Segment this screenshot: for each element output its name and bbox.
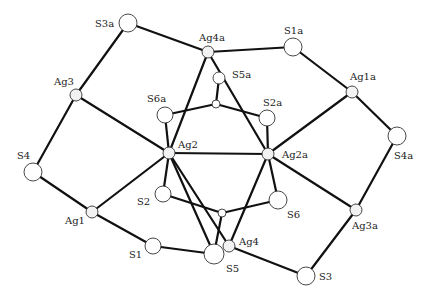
atoms-layer	[24, 14, 406, 285]
bond-ag2-ag2a	[169, 153, 268, 154]
atom-s6	[269, 191, 287, 209]
bond-s1a-ag1a	[293, 47, 352, 92]
atom-label-s6a: S6a	[147, 93, 166, 104]
molecular-structure-diagram: S3aAg4aS1aAg3S5aS6aS2aAg1aS4Ag2Ag2aS4aS2…	[0, 0, 429, 298]
bond-ag4a-s1a	[208, 47, 293, 52]
atom-ag2	[163, 147, 175, 159]
bond-ag4a-ag2	[169, 52, 208, 153]
bond-s4-ag1	[33, 172, 92, 212]
labels-layer: S3aAg4aS1aAg3S5aS6aS2aAg1aS4Ag2Ag2aS4aS2…	[17, 18, 413, 282]
bond-ag2a-ag4	[229, 154, 268, 246]
bond-ag3-s4	[33, 95, 76, 172]
atom-label-ag2: Ag2	[177, 139, 198, 150]
bond-ag2-s5	[169, 153, 214, 254]
bond-ag1-s1	[92, 212, 153, 246]
atom-label-ag2a: Ag2a	[281, 149, 308, 160]
atom-label-s2: S2	[137, 196, 150, 207]
atom-label-s1: S1	[129, 249, 142, 260]
atom-label-ag4a: Ag4a	[198, 32, 225, 43]
atom-label-s4a: S4a	[394, 150, 413, 161]
atom-cbot	[218, 209, 226, 217]
bond-s3-ag4	[229, 246, 306, 276]
atom-label-s6: S6	[287, 209, 300, 220]
atom-s4	[24, 163, 42, 181]
atom-label-s2a: S2a	[263, 97, 282, 108]
atom-s6a	[157, 107, 173, 123]
atom-ctop	[212, 100, 220, 108]
atom-label-ag4: Ag4	[238, 236, 259, 247]
atom-s2	[155, 186, 171, 202]
atom-s1a	[284, 38, 302, 56]
atom-label-s1a: S1a	[284, 25, 303, 36]
bond-s3a-ag3	[76, 23, 128, 95]
atom-s3	[297, 267, 315, 285]
bond-ag3a-s3	[306, 210, 356, 276]
atom-label-ag3: Ag3	[53, 76, 74, 87]
atom-s3a	[119, 14, 137, 32]
atom-ag1a	[346, 86, 358, 98]
bond-s3a-ag4a	[128, 23, 208, 52]
bonds-layer	[33, 23, 397, 276]
atom-ag3a	[350, 204, 362, 216]
atom-label-s3: S3	[319, 271, 332, 282]
atom-ag1	[86, 206, 98, 218]
atom-label-s4: S4	[17, 150, 30, 161]
atom-label-ag1a: Ag1a	[349, 71, 376, 82]
atom-s5	[204, 244, 224, 264]
atom-label-ag3a: Ag3a	[351, 220, 378, 231]
atom-s5a	[213, 72, 225, 84]
atom-label-s3a: S3a	[95, 18, 114, 29]
atom-ag4a	[202, 46, 214, 58]
atom-s1	[145, 238, 161, 254]
atom-s4a	[388, 127, 406, 145]
atom-label-s5: S5	[226, 263, 239, 274]
atom-label-ag1: Ag1	[64, 215, 85, 226]
bond-ag1-ag2	[92, 153, 169, 212]
atom-s2a	[259, 110, 275, 126]
atom-ag4	[223, 240, 235, 252]
bond-s4a-ag3a	[356, 136, 397, 210]
atom-label-s5a: S5a	[232, 69, 251, 80]
atom-ag3	[70, 89, 82, 101]
atom-ag2a	[262, 148, 274, 160]
